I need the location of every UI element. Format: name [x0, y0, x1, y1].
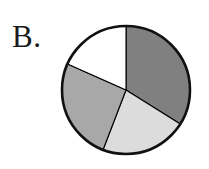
pie-chart-graphic: [0, 0, 209, 169]
pie-chart-figure: B.: [0, 0, 209, 169]
